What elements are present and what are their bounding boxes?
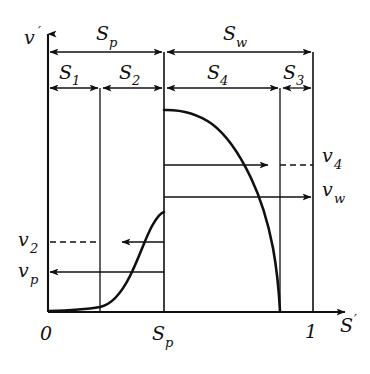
x-tick-sp: S	[152, 322, 165, 344]
sp-span-label: S	[96, 22, 109, 44]
x-tick-sp-group: S p	[152, 322, 174, 350]
vw-label-group: v w	[322, 178, 345, 206]
v4-label-group: v 4	[322, 144, 342, 172]
sw-span-subscript: w	[236, 35, 247, 50]
x-tick-sp-subscript: p	[165, 335, 174, 350]
sw-span-label-group: S w	[223, 22, 247, 50]
vp-label: v	[18, 259, 29, 281]
s2-span-label-group: S 2	[119, 61, 140, 88]
oil-phase-curve	[49, 212, 164, 311]
s1-span-subscript: 1	[72, 73, 80, 88]
x-axis-prime: ′	[354, 312, 357, 327]
sp-span-subscript: p	[109, 35, 118, 50]
y-axis-prime: ′	[38, 24, 41, 39]
vw-label: v	[322, 178, 333, 200]
v2-label-group: v 2	[18, 228, 38, 256]
vw-subscript: w	[334, 191, 345, 206]
s1-span-label: S	[59, 61, 72, 83]
vp-label-group: v p	[18, 259, 39, 287]
y-axis-label-group: v ′	[24, 24, 41, 48]
v4-label: v	[322, 144, 333, 166]
water-phase-curve	[164, 110, 280, 311]
s4-span-label-group: S 4	[207, 61, 228, 88]
x-tick-origin: 0	[40, 322, 52, 344]
s4-span-label: S	[207, 61, 220, 83]
s3-span-label: S	[283, 61, 296, 83]
s2-span-label: S	[119, 61, 132, 83]
x-axis-label: S	[340, 314, 353, 336]
x-tick-one: 1	[305, 320, 317, 342]
x-axis-label-group: S ′	[340, 312, 357, 336]
v2-subscript: 2	[29, 241, 38, 256]
sw-span-label: S	[223, 22, 236, 44]
sp-span-label-group: S p	[96, 22, 118, 50]
vp-subscript: p	[30, 272, 39, 287]
s2-span-subscript: 2	[131, 73, 140, 88]
s3-span-label-group: S 3	[283, 61, 304, 88]
figure-container: v ′ S ′ 0 S p 1 S p S w S 1 S	[0, 0, 370, 374]
s4-span-subscript: 4	[219, 73, 228, 88]
s3-span-subscript: 3	[296, 73, 304, 88]
y-axis-label: v	[24, 26, 35, 48]
v4-subscript: 4	[333, 157, 342, 172]
diagram-canvas: v ′ S ′ 0 S p 1 S p S w S 1 S	[0, 0, 370, 374]
s1-span-label-group: S 1	[59, 61, 80, 88]
v2-label: v	[18, 228, 29, 250]
